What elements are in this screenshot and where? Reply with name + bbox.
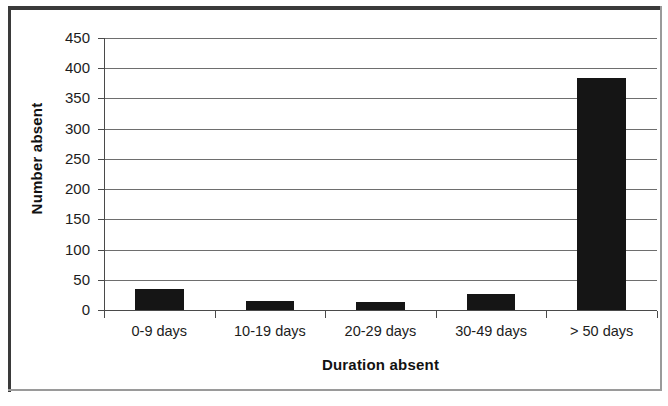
figure-border-bottom (8, 389, 662, 391)
x-tick-0 (104, 311, 105, 318)
bar (467, 294, 516, 310)
y-tick-label-450: 450 (44, 30, 90, 45)
bar (356, 302, 405, 310)
y-tick-label-250: 250 (44, 151, 90, 166)
category-label: 10-19 days (215, 324, 326, 339)
y-tick-label-200: 200 (44, 181, 90, 196)
category-label: 30-49 days (436, 324, 547, 339)
y-tick-label-50: 50 (44, 272, 90, 287)
y-axis-title: Number absent (28, 79, 45, 239)
x-axis-title: Duration absent (104, 356, 657, 373)
category-label: 0-9 days (104, 324, 215, 339)
figure-border-right (660, 6, 662, 391)
bar (246, 301, 295, 310)
bar-series (104, 38, 657, 310)
x-tick-5 (657, 311, 658, 318)
x-axis-line (104, 310, 657, 311)
y-tick-label-400: 400 (44, 60, 90, 75)
category-label: > 50 days (546, 324, 657, 339)
bar (135, 289, 184, 310)
y-tick-label-100: 100 (44, 242, 90, 257)
figure-border-left (8, 6, 11, 392)
bar (577, 78, 626, 310)
figure-border-top (8, 6, 662, 10)
y-tick-label-300: 300 (44, 121, 90, 136)
x-tick-2 (325, 311, 326, 318)
y-tick-label-150: 150 (44, 211, 90, 226)
x-tick-1 (215, 311, 216, 318)
x-tick-3 (436, 311, 437, 318)
bar-chart-figure: 050100150200250300350400450 0-9 days10-1… (0, 0, 668, 406)
y-tick-label-0: 0 (44, 302, 90, 317)
y-tick-label-350: 350 (44, 90, 90, 105)
category-label: 20-29 days (325, 324, 436, 339)
x-tick-4 (546, 311, 547, 318)
